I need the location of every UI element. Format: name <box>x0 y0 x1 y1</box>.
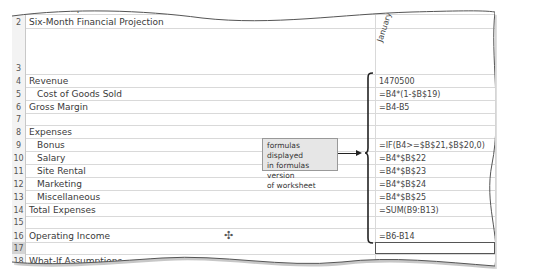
row-header-16[interactable]: 16 <box>12 228 26 242</box>
cell-b3[interactable] <box>375 28 495 74</box>
row-header-3[interactable]: 3 <box>12 28 26 74</box>
row-8: 8 Expenses <box>12 125 495 139</box>
row-header-8[interactable]: 8 <box>12 125 26 138</box>
cell-a14[interactable]: Total Expenses <box>27 203 375 216</box>
row-5: 5 Cost of Goods Sold =B4*(1-$B$19) <box>12 87 495 101</box>
row-2: 2 Six-Month Financial Projection <box>12 14 495 29</box>
cell-b12[interactable]: =B4*$B$24 <box>375 177 495 190</box>
cell-a15[interactable] <box>27 216 375 228</box>
cell-b16[interactable]: =B6-B14 <box>375 228 495 242</box>
cell-b7[interactable] <box>375 113 495 125</box>
cell-a8[interactable]: Expenses <box>27 125 375 138</box>
row-6: 6 Gross Margin =B4-B5 <box>12 100 495 114</box>
row-4: 4 Revenue 1470500 <box>12 74 495 88</box>
cell-b6[interactable]: =B4-B5 <box>375 100 495 113</box>
cell-b9[interactable]: =IF(B4>=$B$21,$B$20,0) <box>375 138 495 151</box>
left-brace-icon <box>364 72 374 244</box>
callout-box: formulas displayed in formulas version o… <box>262 138 338 171</box>
row-header-9[interactable]: 9 <box>12 138 26 151</box>
row-header-11[interactable]: 11 <box>12 164 26 177</box>
cell-b5[interactable]: =B4*(1-$B$19) <box>375 87 495 100</box>
cell-b15[interactable] <box>375 216 495 228</box>
row-header-13[interactable]: 13 <box>12 190 26 203</box>
cell-b1[interactable] <box>375 4 495 14</box>
row-header-5[interactable]: 5 <box>12 87 26 100</box>
row-header-17[interactable]: 17 <box>12 242 26 254</box>
row-12: 12 Marketing =B4*$B$24 <box>12 177 495 191</box>
cell-a6[interactable]: Gross Margin <box>27 100 375 113</box>
cell-select-cursor-icon: ✣ <box>224 229 233 242</box>
cell-a16[interactable]: Operating Income <box>27 228 375 242</box>
row-3: 3 <box>12 28 495 75</box>
cell-a3[interactable] <box>27 28 375 74</box>
row-header-14[interactable]: 14 <box>12 203 26 216</box>
cell-b14[interactable]: =SUM(B9:B13) <box>375 203 495 216</box>
cell-b2[interactable] <box>375 14 495 28</box>
row-14: 14 Total Expenses =SUM(B9:B13) <box>12 203 495 217</box>
row-13: 13 Miscellaneous =B4*$B$25 <box>12 190 495 204</box>
callout-line-2: in formulas version <box>267 161 333 181</box>
row-header-12[interactable]: 12 <box>12 177 26 190</box>
row-16: 16 Operating Income =B6-B14 <box>12 228 495 243</box>
row-11: 11 Site Rental =B4*$B$23 <box>12 164 495 178</box>
row-header-6[interactable]: 6 <box>12 100 26 113</box>
cell-b4[interactable]: 1470500 <box>375 74 495 87</box>
cell-a17[interactable] <box>27 242 375 254</box>
cell-a13[interactable]: Miscellaneous <box>27 190 375 203</box>
cell-b8[interactable] <box>375 125 495 138</box>
cell-b11[interactable]: =B4*$B$23 <box>375 164 495 177</box>
row-header-2[interactable]: 2 <box>12 14 26 28</box>
cell-a4[interactable]: Revenue <box>27 74 375 87</box>
row-header-7[interactable]: 7 <box>12 113 26 125</box>
cell-a5[interactable]: Cost of Goods Sold <box>27 87 375 100</box>
callout-line-1: formulas displayed <box>267 141 333 161</box>
row-9: 9 Bonus =IF(B4>=$B$21,$B$20,0) <box>12 138 495 152</box>
row-header-1[interactable]: 1 <box>12 4 26 14</box>
cell-a1[interactable]: Mahola Department... <box>27 4 375 14</box>
row-header-15[interactable]: 15 <box>12 216 26 228</box>
row-10: 10 Salary =B4*$B$22 <box>12 151 495 165</box>
cell-a7[interactable] <box>27 113 375 125</box>
worksheet: 1 Mahola Department... 2 Six-Month Finan… <box>12 4 495 270</box>
callout-line-3: of worksheet <box>267 181 333 191</box>
cell-b13[interactable]: =B4*$B$25 <box>375 190 495 203</box>
row-header-10[interactable]: 10 <box>12 151 26 164</box>
cell-b10[interactable]: =B4*$B$22 <box>375 151 495 164</box>
cell-b17-active[interactable] <box>375 242 495 254</box>
cell-a2[interactable]: Six-Month Financial Projection <box>27 14 375 28</box>
row-header-4[interactable]: 4 <box>12 74 26 87</box>
callout-arrow-icon <box>356 150 362 156</box>
